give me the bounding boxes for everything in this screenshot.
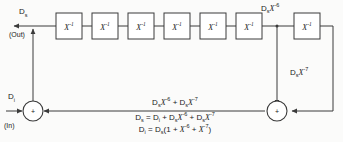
- equation-line-2: Ds = Di + DsX-6 + DsX-7: [110, 112, 240, 124]
- delay-box-4-label: X-1: [164, 22, 190, 32]
- feedback-adder-sign: +: [273, 108, 281, 115]
- input-adder-sign: +: [29, 108, 37, 115]
- equation-sum-line: DsX-6 + DsX-7: [120, 97, 230, 109]
- output-port-label: Ds: [19, 8, 28, 18]
- delay-box-2-label: X-1: [92, 22, 118, 32]
- tap-x7-label: DsX-7: [290, 67, 308, 79]
- equation-line-3: Di = Ds(1 + X-6 + X-7): [115, 124, 235, 136]
- delay-box-1-label: X-1: [56, 22, 82, 32]
- delay-box-6-label: X-1: [236, 22, 262, 32]
- input-port-label: Di: [8, 93, 15, 103]
- diagram-canvas: X-1 X-1 X-1 X-1 X-1 X-1 X-1 Ds (Out) Di …: [0, 0, 343, 142]
- delay-box-5-label: X-1: [200, 22, 226, 32]
- delay-box-3-label: X-1: [128, 22, 154, 32]
- tap-x6-label: DsX-6: [261, 3, 279, 15]
- output-direction-label: (Out): [9, 31, 25, 38]
- input-direction-label: (In): [4, 122, 15, 129]
- delay-box-7-label: X-1: [294, 22, 320, 32]
